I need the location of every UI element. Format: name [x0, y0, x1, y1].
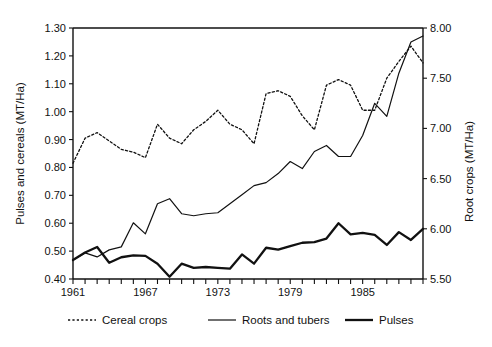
series-group	[73, 36, 423, 277]
y-axis-left-tick-label: 0.40	[45, 273, 66, 285]
y-axis-right-tick-label: 6.50	[430, 173, 451, 185]
series-line-cereal-crops	[73, 46, 423, 163]
legend-item-cereal-crops[interactable]: Cereal crops	[68, 314, 167, 326]
chart-figure: 0.400.500.600.700.800.901.001.101.201.30…	[0, 0, 492, 347]
y-axis-right-title: Root crops (MT/Ha)	[463, 121, 475, 222]
y-axis-right-tick-label: 6.00	[430, 223, 451, 235]
x-axis-tick-label: 1961	[61, 286, 85, 298]
x-axis-tick-label: 1985	[350, 286, 374, 298]
y-axis-right-tick-label: 8.00	[430, 22, 451, 34]
y-axis-left-tick-label: 0.70	[45, 189, 66, 201]
series-line-roots-and-tubers	[73, 36, 423, 260]
axis-titles-group: Pulses and cereals (MT/Ha)Root crops (MT…	[14, 82, 475, 225]
y-axis-right-tick-label: 7.00	[430, 122, 451, 134]
legend-label: Roots and tubers	[242, 314, 330, 326]
legend-item-roots-and-tubers[interactable]: Roots and tubers	[208, 314, 330, 326]
y-axis-left-tick-label: 0.90	[45, 134, 66, 146]
y-axis-left-title: Pulses and cereals (MT/Ha)	[14, 82, 26, 225]
line-chart: 0.400.500.600.700.800.901.001.101.201.30…	[0, 0, 492, 347]
legend-item-pulses[interactable]: Pulses	[345, 314, 414, 326]
y-axis-left-tick-label: 1.10	[45, 78, 66, 90]
legend-label: Pulses	[379, 314, 414, 326]
chart-legend: Cereal cropsRoots and tubersPulses	[68, 314, 414, 326]
y-axis-right-tick-label: 5.50	[430, 273, 451, 285]
legend-label: Cereal crops	[102, 314, 167, 326]
y-axis-left-tick-label: 0.60	[45, 217, 66, 229]
y-axis-right-tick-label: 7.50	[430, 72, 451, 84]
y-axis-left-tick-label: 0.50	[45, 245, 66, 257]
x-axis-tick-label: 1973	[206, 286, 230, 298]
y-axis-left-tick-label: 0.80	[45, 161, 66, 173]
y-axis-left-tick-label: 1.20	[45, 50, 66, 62]
series-line-pulses	[73, 223, 423, 277]
x-axis-tick-label: 1979	[278, 286, 302, 298]
x-axis-tick-label: 1967	[133, 286, 157, 298]
y-axis-left-tick-label: 1.30	[45, 22, 66, 34]
y-axis-left-tick-label: 1.00	[45, 106, 66, 118]
